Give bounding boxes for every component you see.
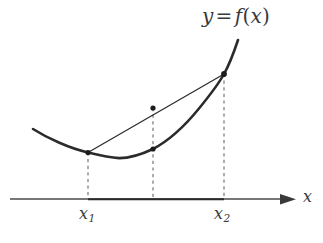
chord-secant-line (88, 74, 224, 153)
figure-canvas: y=f(x) x1 x2 x (0, 0, 323, 243)
chord-point-mid (150, 105, 155, 110)
x-axis-label: x (303, 189, 312, 205)
function-equation-label: y=f(x) (202, 6, 270, 26)
curve-point-x1 (85, 150, 90, 155)
tick-label-x2-subscript: 2 (223, 212, 230, 224)
equation-y: y (202, 4, 214, 28)
x-axis-arrow-icon (280, 194, 296, 204)
curve-point-mid (150, 146, 155, 151)
equation-equals: = (214, 4, 235, 28)
convex-function-diagram (0, 0, 323, 243)
equation-close-paren: ) (262, 4, 270, 28)
tick-label-x1-base: x (79, 204, 88, 223)
tick-label-x1-subscript: 1 (88, 212, 95, 224)
function-curve (33, 40, 238, 158)
tick-label-x1: x1 (79, 206, 95, 224)
tick-label-x2-base: x (214, 204, 223, 223)
curve-point-x2 (221, 71, 227, 77)
equation-x: x (250, 4, 262, 28)
tick-label-x2: x2 (214, 206, 230, 224)
